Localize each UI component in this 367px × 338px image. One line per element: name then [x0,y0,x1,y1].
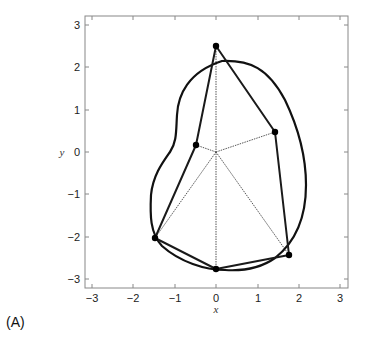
svg-text:3: 3 [74,19,80,31]
vertex-bottom [213,266,219,272]
svg-text:1: 1 [255,292,261,304]
vertex-right [272,129,278,135]
svg-text:−1: −1 [169,292,182,304]
svg-text:0: 0 [74,146,80,158]
figure: −3 −2 −1 0 1 2 3 3 2 1 0 −1 −2 −3 x y [0,0,367,338]
svg-text:2: 2 [74,61,80,73]
svg-text:−3: −3 [67,273,80,285]
x-axis-label: x [213,303,219,315]
svg-text:−2: −2 [127,292,140,304]
vertex-top [213,43,219,49]
panel-label: (A) [6,314,25,330]
svg-text:−1: −1 [67,188,80,200]
svg-text:−3: −3 [86,292,99,304]
y-axis-label: y [59,146,65,158]
vertex-left [193,142,199,148]
svg-text:−2: −2 [67,231,80,243]
svg-text:3: 3 [337,292,343,304]
vertex-bottom-right [286,252,292,258]
svg-text:2: 2 [296,292,302,304]
svg-text:1: 1 [74,104,80,116]
vertex-bottom-left [152,235,158,241]
y-tick-labels: 3 2 1 0 −1 −2 −3 [67,19,80,285]
